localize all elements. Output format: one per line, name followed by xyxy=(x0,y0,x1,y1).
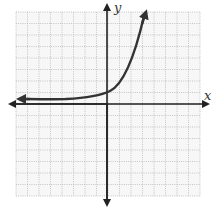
y-axis-label: y xyxy=(114,1,121,14)
coordinate-graph xyxy=(0,0,219,214)
x-axis-label: x xyxy=(204,89,211,102)
